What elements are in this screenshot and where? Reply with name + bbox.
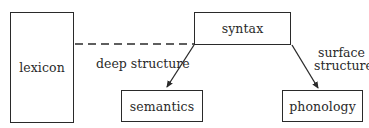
syntax-box: syntax: [194, 12, 291, 45]
semantics-label: semantics: [130, 99, 195, 114]
deep-structure-label: deep structure: [96, 57, 190, 70]
surface-structure-line2: structure: [314, 59, 360, 72]
syntax-label: syntax: [222, 21, 264, 36]
linguistic-model-diagram: lexicon syntax semantics phonology deep …: [0, 0, 369, 128]
lexicon-label: lexicon: [19, 60, 65, 75]
phonology-box: phonology: [282, 90, 363, 122]
semantics-box: semantics: [121, 90, 203, 122]
lexicon-box: lexicon: [10, 12, 74, 123]
phonology-label: phonology: [289, 99, 356, 114]
surface-structure-label: surface structure: [318, 46, 360, 72]
